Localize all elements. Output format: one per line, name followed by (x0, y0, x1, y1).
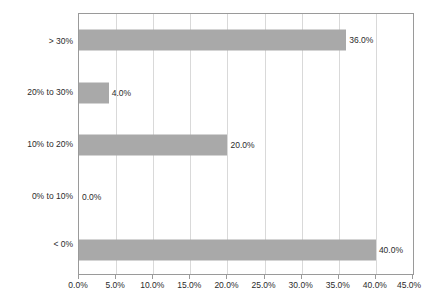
x-axis-tick-label-1: 5.0% (105, 281, 124, 290)
bar-gt-30[interactable] (79, 30, 346, 51)
bar-row: 4.0% (79, 66, 413, 118)
x-axis-tick (301, 275, 302, 279)
x-axis-tick-label-3: 15.0% (177, 281, 201, 290)
x-axis-tick-label-8: 40.0% (363, 281, 387, 290)
bar-20-to-30[interactable] (79, 82, 109, 103)
y-axis-category-labels: < 0% 0% to 10% 10% to 20% 20% to 30% > 3… (0, 13, 73, 275)
bar-value-label-10-to-20: 20.0% (227, 141, 254, 150)
x-axis-tick (115, 275, 116, 279)
y-axis-label-1: 0% to 10% (32, 192, 73, 201)
x-axis-tick (226, 275, 227, 279)
bar-value-label-gt-30: 36.0% (346, 36, 373, 45)
x-axis-tick-label-6: 30.0% (289, 281, 313, 290)
bar-chart: < 0% 0% to 10% 10% to 20% 20% to 30% > 3… (0, 0, 444, 308)
y-axis-label-4: > 30% (49, 37, 73, 46)
bar-value-label-0-to-10: 0.0% (79, 193, 101, 202)
bar-10-to-20[interactable] (79, 134, 227, 155)
y-axis-label-0: < 0% (53, 240, 73, 249)
bar-row: 36.0% (79, 14, 413, 66)
x-axis-tick-label-9: 45.0% (397, 281, 421, 290)
x-axis-tick-label-4: 20.0% (214, 281, 238, 290)
x-axis-tick-label-7: 35.0% (326, 281, 350, 290)
x-axis-tick (375, 275, 376, 279)
plot-area: 36.0% 4.0% 20.0% 0.0% 40.0% (78, 13, 414, 275)
x-axis-tick-label-2: 10.0% (140, 281, 164, 290)
y-axis-label-3: 20% to 30% (27, 88, 73, 97)
x-axis-tick (412, 275, 413, 279)
bar-lt-0[interactable] (79, 239, 376, 260)
bar-row: 0.0% (79, 171, 413, 223)
y-axis-label-2: 10% to 20% (27, 140, 73, 149)
bar-row: 40.0% (79, 224, 413, 276)
x-axis-tick (152, 275, 153, 279)
x-axis-tick-label-5: 25.0% (251, 281, 275, 290)
bar-value-label-20-to-30: 4.0% (109, 88, 131, 97)
bar-row: 20.0% (79, 119, 413, 171)
x-axis-tick (264, 275, 265, 279)
x-axis-tick-labels: 0.0% 5.0% 10.0% 15.0% 20.0% 25.0% 30.0% … (78, 281, 414, 295)
bar-value-label-lt-0: 40.0% (376, 246, 403, 255)
x-axis-tick-label-0: 0.0% (68, 281, 87, 290)
x-axis-tick (189, 275, 190, 279)
x-axis-tick (78, 275, 79, 279)
x-axis-tick (338, 275, 339, 279)
